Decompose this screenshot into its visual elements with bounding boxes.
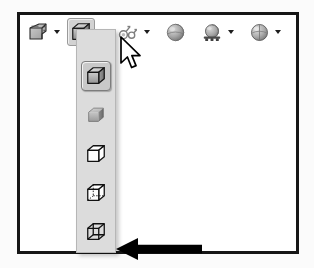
hidden-lines-removed-cube-icon xyxy=(85,143,107,165)
shadow-sphere-icon xyxy=(249,22,270,43)
flyout-item-hidden-lines-visible[interactable] xyxy=(77,173,115,212)
flyout-item-wireframe[interactable] xyxy=(77,212,115,251)
flyout-item-shaded-with-edges[interactable] xyxy=(77,56,115,95)
view-display-toolbar xyxy=(20,15,296,49)
hide-show-items-button[interactable] xyxy=(114,18,142,46)
view-settings-caret[interactable] xyxy=(273,18,283,46)
section-view-icon xyxy=(27,21,49,43)
scene-sphere-icon xyxy=(201,22,223,43)
flyout-item-shaded[interactable] xyxy=(77,95,115,134)
display-style-flyout-list xyxy=(77,56,115,251)
icon-wrapper xyxy=(81,139,111,169)
icon-wrapper xyxy=(81,217,111,247)
section-view-caret[interactable] xyxy=(52,18,62,46)
sphere-appearance-icon xyxy=(165,22,186,43)
display-style-flyout[interactable] xyxy=(76,29,116,253)
toolbar-item-edit-appearance[interactable] xyxy=(161,17,189,47)
section-view-button[interactable] xyxy=(24,18,52,46)
view-settings-button[interactable] xyxy=(245,18,273,46)
toolbar-item-section-view[interactable] xyxy=(24,17,62,47)
apply-scene-button[interactable] xyxy=(198,18,226,46)
icon-wrapper xyxy=(81,61,111,91)
icon-wrapper xyxy=(81,178,111,208)
callout-arrow xyxy=(116,237,202,261)
hidden-lines-visible-cube-icon xyxy=(85,182,107,204)
apply-scene-caret[interactable] xyxy=(226,18,236,46)
wireframe-cube-icon xyxy=(85,221,107,243)
screenshot-canvas xyxy=(0,0,314,268)
window-frame xyxy=(17,12,299,254)
shaded-cube-icon xyxy=(85,104,107,126)
toolbar-item-view-settings[interactable] xyxy=(245,17,283,47)
hide-show-items-caret[interactable] xyxy=(142,18,152,46)
edit-appearance-button[interactable] xyxy=(161,18,189,46)
toolbar-item-hide-show-items[interactable] xyxy=(114,17,152,47)
toolbar-item-apply-scene[interactable] xyxy=(198,17,236,47)
icon-wrapper xyxy=(81,100,111,130)
flyout-item-hidden-lines-removed[interactable] xyxy=(77,134,115,173)
hide-show-items-icon xyxy=(117,22,139,42)
shaded-with-edges-cube-icon xyxy=(85,65,107,87)
